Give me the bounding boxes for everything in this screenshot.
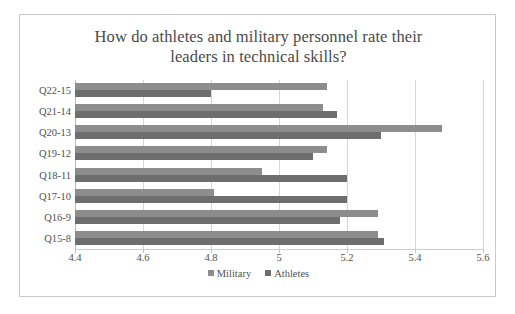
plot-area: Q22-15Q21-14Q20-13Q19-12Q18-11Q17-10Q16-…	[75, 80, 483, 249]
bar-group	[75, 186, 483, 207]
y-axis-label-q16-9: Q16-9	[13, 207, 71, 228]
bar-athletes	[75, 111, 337, 118]
legend-swatch-icon	[208, 270, 214, 276]
y-axis-label-q21-14: Q21-14	[13, 101, 71, 122]
legend-label: Military	[217, 268, 251, 279]
legend-item-athletes[interactable]: Athletes	[265, 267, 309, 279]
bar-military	[75, 168, 262, 175]
y-axis-label-q15-8: Q15-8	[13, 228, 71, 249]
bar-group	[75, 143, 483, 164]
bar-athletes	[75, 217, 340, 224]
y-axis-label-q19-12: Q19-12	[13, 143, 71, 164]
legend-item-military[interactable]: Military	[208, 267, 251, 279]
y-axis-labels: Q22-15Q21-14Q20-13Q19-12Q18-11Q17-10Q16-…	[13, 80, 71, 249]
x-axis-tick-label: 4.4	[68, 252, 81, 263]
y-axis-label-q20-13: Q20-13	[13, 122, 71, 143]
bar-military	[75, 125, 442, 132]
chart-title-line-1: How do athletes and military personnel r…	[20, 27, 497, 47]
bar-group	[75, 207, 483, 228]
y-axis-label-q22-15: Q22-15	[13, 80, 71, 101]
legend-swatch-icon	[265, 270, 271, 276]
bar-military	[75, 189, 214, 196]
bar-military	[75, 83, 327, 90]
gridline	[483, 80, 484, 249]
y-axis-label-q18-11: Q18-11	[13, 165, 71, 186]
bar-military	[75, 231, 378, 238]
x-axis-tick-label: 4.6	[136, 252, 149, 263]
bar-military	[75, 146, 327, 153]
x-axis-tick-label: 5	[276, 252, 281, 263]
bar-athletes	[75, 153, 313, 160]
x-axis-tick-label: 5.2	[340, 252, 353, 263]
bar-athletes	[75, 238, 384, 245]
x-axis-tick-label: 5.6	[476, 252, 489, 263]
bar-group	[75, 101, 483, 122]
y-axis-label-q17-10: Q17-10	[13, 186, 71, 207]
bar-athletes	[75, 196, 347, 203]
bar-group	[75, 80, 483, 101]
chart-frame: How do athletes and military personnel r…	[19, 14, 496, 297]
bar-military	[75, 104, 323, 111]
bar-athletes	[75, 90, 211, 97]
chart-title-line-2: leaders in technical skills?	[20, 47, 497, 67]
chart-legend: MilitaryAthletes	[20, 267, 497, 279]
bar-group	[75, 228, 483, 249]
legend-label: Athletes	[274, 268, 309, 279]
chart-title: How do athletes and military personnel r…	[20, 27, 497, 67]
bar-group	[75, 122, 483, 143]
bar-military	[75, 210, 378, 217]
bar-athletes	[75, 132, 381, 139]
x-axis-tick-label: 4.8	[204, 252, 217, 263]
bar-group	[75, 165, 483, 186]
x-axis-tick-label: 5.4	[408, 252, 421, 263]
bar-athletes	[75, 175, 347, 182]
